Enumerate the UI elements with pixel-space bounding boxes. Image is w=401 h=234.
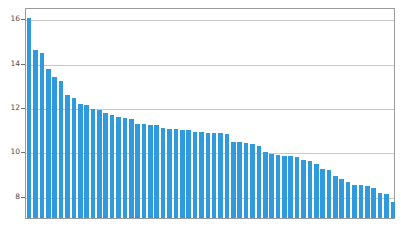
bar bbox=[359, 185, 364, 218]
bar bbox=[378, 193, 383, 218]
bar bbox=[231, 142, 236, 218]
plot-area bbox=[25, 8, 395, 219]
bar bbox=[186, 130, 191, 218]
bar bbox=[225, 134, 230, 218]
bar bbox=[237, 142, 242, 218]
bar bbox=[384, 194, 389, 218]
bar bbox=[103, 113, 108, 219]
bar bbox=[27, 18, 32, 218]
bar bbox=[365, 186, 370, 218]
bar bbox=[174, 129, 179, 218]
x-axis-tick-labels bbox=[25, 221, 395, 234]
bar bbox=[59, 81, 64, 218]
bar bbox=[333, 176, 338, 218]
bar bbox=[308, 161, 313, 218]
bar bbox=[314, 164, 319, 218]
bar bbox=[391, 202, 396, 218]
bar bbox=[352, 185, 357, 218]
bar bbox=[135, 124, 140, 218]
bar bbox=[212, 133, 217, 219]
bar bbox=[218, 133, 223, 219]
bar-series bbox=[26, 9, 394, 218]
bar bbox=[320, 169, 325, 218]
bar bbox=[269, 154, 274, 218]
bar bbox=[199, 132, 204, 218]
bar bbox=[295, 157, 300, 218]
bar bbox=[52, 77, 57, 218]
bar bbox=[257, 146, 262, 218]
bar bbox=[276, 155, 281, 218]
bar bbox=[301, 160, 306, 218]
bar bbox=[33, 50, 38, 218]
bar bbox=[40, 53, 45, 218]
bar bbox=[244, 143, 249, 218]
bar bbox=[288, 156, 293, 218]
bar bbox=[206, 133, 211, 219]
bar bbox=[282, 156, 287, 218]
bar bbox=[72, 98, 77, 218]
bar bbox=[193, 132, 198, 218]
bar bbox=[97, 110, 102, 218]
bar bbox=[250, 144, 255, 218]
bar bbox=[91, 109, 96, 218]
bar bbox=[78, 104, 83, 218]
bar bbox=[327, 170, 332, 218]
bar bbox=[148, 125, 153, 218]
bar bbox=[180, 130, 185, 218]
bar bbox=[339, 179, 344, 218]
bar bbox=[110, 115, 115, 218]
bar bbox=[371, 188, 376, 218]
bar bbox=[116, 117, 121, 218]
bar bbox=[154, 125, 159, 218]
bar-chart-figure: 810121416 bbox=[0, 0, 401, 234]
bar bbox=[84, 105, 89, 218]
bar bbox=[161, 128, 166, 218]
bar bbox=[263, 152, 268, 218]
bar bbox=[142, 124, 147, 218]
bar bbox=[346, 182, 351, 218]
bar bbox=[46, 69, 51, 218]
bar bbox=[129, 119, 134, 218]
bar bbox=[65, 95, 70, 218]
y-axis-tick-marks bbox=[0, 8, 25, 219]
bar bbox=[123, 118, 128, 218]
bar bbox=[167, 129, 172, 218]
